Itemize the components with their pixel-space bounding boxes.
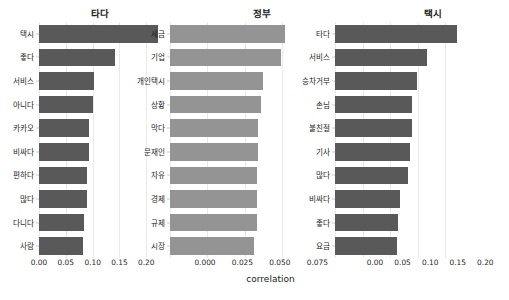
bar bbox=[335, 49, 427, 66]
bar-row: 기업 bbox=[170, 49, 295, 66]
bar-row: 개인택시 bbox=[170, 72, 295, 89]
x-axis: 0.000.050.100.150.20 bbox=[39, 258, 165, 272]
bar bbox=[39, 237, 83, 254]
y-axis-label: 승차거부 bbox=[302, 76, 330, 85]
bar-rows: 세금기업개인택시상황막다문재인자유경제규제시장 bbox=[170, 22, 295, 258]
y-axis-label: 다니다 bbox=[13, 218, 34, 227]
figure-canvas: 타다 택시좋다서비스아니다카카오비싸다편하다많다다니다사람 0.000.050.… bbox=[0, 0, 509, 300]
bar-row: 택시 bbox=[39, 25, 165, 42]
bar bbox=[39, 72, 94, 89]
bar bbox=[170, 190, 257, 207]
bar-row: 경제 bbox=[170, 190, 295, 207]
x-tick-label: 0.00 bbox=[367, 258, 383, 267]
y-axis-label: 막다 bbox=[151, 124, 165, 133]
x-axis-title: correlation bbox=[170, 274, 353, 284]
bar bbox=[335, 237, 397, 254]
bar bbox=[39, 143, 89, 160]
plot-area: 타다서비스승차거부손님불친절기사많다비싸다좋다요금 bbox=[335, 22, 463, 258]
x-tick-label: 0.00 bbox=[31, 258, 47, 267]
bar-row: 시장 bbox=[170, 237, 295, 254]
bar-row: 요금 bbox=[335, 237, 463, 254]
y-axis-label: 타다 bbox=[316, 29, 330, 38]
bar bbox=[335, 25, 457, 42]
y-axis-label: 기업 bbox=[151, 53, 165, 62]
chart-panel-government: 정부 세금기업개인택시상황막다문재인자유경제규제시장 0.0000.0250.0… bbox=[170, 0, 335, 300]
y-axis-label: 기사 bbox=[316, 147, 330, 156]
y-axis-label: 아니다 bbox=[13, 100, 34, 109]
y-axis-label: 자유 bbox=[151, 171, 165, 180]
y-axis-label: 서비스 bbox=[309, 53, 330, 62]
bar bbox=[335, 96, 412, 113]
bar bbox=[170, 143, 258, 160]
y-axis-label: 문재인 bbox=[144, 147, 165, 156]
bar-row: 상황 bbox=[170, 96, 295, 113]
x-axis: 0.000.050.100.150.20 bbox=[375, 258, 503, 272]
bar-row: 사람 bbox=[39, 237, 165, 254]
y-axis-label: 시장 bbox=[151, 242, 165, 251]
bar bbox=[335, 119, 412, 136]
plot-area: 세금기업개인택시상황막다문재인자유경제규제시장 bbox=[170, 22, 295, 258]
y-axis-label: 개인택시 bbox=[137, 76, 165, 85]
bar bbox=[39, 49, 115, 66]
bar bbox=[170, 214, 257, 231]
bar-rows: 택시좋다서비스아니다카카오비싸다편하다많다다니다사람 bbox=[39, 22, 165, 258]
bar bbox=[170, 167, 257, 184]
bar bbox=[170, 25, 285, 42]
x-tick-label: 0.05 bbox=[58, 258, 74, 267]
bar-row: 자유 bbox=[170, 167, 295, 184]
bar-row: 문재인 bbox=[170, 143, 295, 160]
y-axis-label: 비싸다 bbox=[309, 194, 330, 203]
bar-row: 비싸다 bbox=[335, 190, 463, 207]
y-axis-label: 규제 bbox=[151, 218, 165, 227]
bar bbox=[335, 167, 408, 184]
y-axis-label: 요금 bbox=[316, 242, 330, 251]
y-axis-label: 비싸다 bbox=[13, 147, 34, 156]
bar bbox=[39, 96, 93, 113]
chart-panel-taxi: 택시 타다서비스승차거부손님불친절기사많다비싸다좋다요금 0.000.050.1… bbox=[335, 0, 509, 300]
x-tick-label: 0.050 bbox=[269, 258, 290, 267]
x-tick-label: 0.10 bbox=[422, 258, 438, 267]
bar bbox=[335, 214, 398, 231]
bar bbox=[39, 214, 84, 231]
bar-rows: 타다서비스승차거부손님불친절기사많다비싸다좋다요금 bbox=[335, 22, 463, 258]
bar-row: 타다 bbox=[335, 25, 463, 42]
y-axis-label: 택시 bbox=[20, 29, 34, 38]
x-tick-label: 0.05 bbox=[394, 258, 410, 267]
x-tick-label: 0.000 bbox=[194, 258, 215, 267]
x-tick-label: 0.20 bbox=[477, 258, 493, 267]
y-axis-label: 많다 bbox=[316, 171, 330, 180]
bar bbox=[39, 119, 89, 136]
bar bbox=[335, 143, 410, 160]
panel-title: 정부 bbox=[170, 6, 335, 20]
bar-row: 카카오 bbox=[39, 119, 165, 136]
bar-row: 불친절 bbox=[335, 119, 463, 136]
bar-row: 많다 bbox=[39, 190, 165, 207]
bar-row: 아니다 bbox=[39, 96, 165, 113]
y-axis-label: 사람 bbox=[20, 242, 34, 251]
plot-area: 택시좋다서비스아니다카카오비싸다편하다많다다니다사람 bbox=[39, 22, 165, 258]
y-axis-label: 불친절 bbox=[309, 124, 330, 133]
y-axis-label: 카카오 bbox=[13, 124, 34, 133]
panel-title: 택시 bbox=[335, 6, 509, 20]
bar bbox=[335, 72, 417, 89]
y-axis-label: 서비스 bbox=[13, 76, 34, 85]
bar-row: 막다 bbox=[170, 119, 295, 136]
x-tick-label: 0.10 bbox=[84, 258, 100, 267]
x-tick-label: 0.15 bbox=[450, 258, 466, 267]
bar-row: 기사 bbox=[335, 143, 463, 160]
bar bbox=[170, 96, 261, 113]
bar bbox=[39, 25, 158, 42]
y-axis-label: 많다 bbox=[20, 194, 34, 203]
bar-row: 다니다 bbox=[39, 214, 165, 231]
y-axis-label: 손님 bbox=[316, 100, 330, 109]
x-axis: 0.0000.0250.0500.075 bbox=[205, 258, 330, 272]
y-axis-label: 경제 bbox=[151, 194, 165, 203]
y-axis-label: 편하다 bbox=[13, 171, 34, 180]
bar bbox=[170, 119, 258, 136]
x-tick-label: 0.15 bbox=[111, 258, 127, 267]
x-tick-label: 0.075 bbox=[307, 258, 328, 267]
y-axis-label: 상황 bbox=[151, 100, 165, 109]
bar bbox=[335, 190, 400, 207]
bar bbox=[39, 190, 87, 207]
panel-title: 타다 bbox=[0, 6, 170, 20]
